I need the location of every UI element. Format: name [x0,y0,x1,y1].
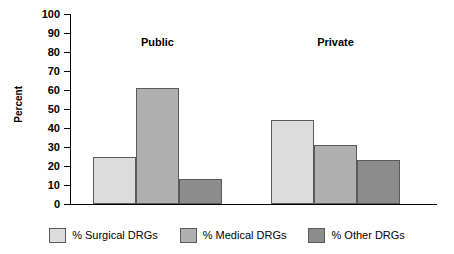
legend-item: % Medical DRGs [180,228,287,243]
y-axis-tick [64,204,70,205]
y-axis-tick-label: 20 [20,161,60,172]
legend-item: % Other DRGs [308,228,404,243]
bar [271,120,314,204]
bar [357,160,400,204]
y-axis-line [70,14,71,205]
group-title-private: Private [286,36,386,48]
y-axis-tick-label: 70 [20,66,60,77]
bar [314,145,357,204]
legend-label: % Other DRGs [331,229,404,241]
y-axis-tick [64,166,70,167]
y-axis-tick [64,128,70,129]
chart-legend: % Surgical DRGs% Medical DRGs% Other DRG… [0,222,454,248]
legend-swatch-icon [180,228,197,243]
y-axis-tick [64,71,70,72]
bar [136,88,179,204]
x-axis-line [70,204,437,205]
y-axis-tick-label: 10 [20,180,60,191]
legend-swatch-icon [308,228,325,243]
legend-label: % Surgical DRGs [72,229,158,241]
y-axis-tick [64,90,70,91]
y-axis-tick [64,33,70,34]
legend-swatch-icon [49,228,66,243]
y-axis-tick [64,14,70,15]
bar [93,157,136,204]
legend-label: % Medical DRGs [203,229,287,241]
y-axis-tick [64,147,70,148]
y-axis-tick-label: 0 [20,199,60,210]
y-axis-tick-label: 60 [20,85,60,96]
y-axis-tick-label: 90 [20,28,60,39]
bar-chart: Percent 1009080706050403020100 PublicPri… [0,0,454,254]
y-axis-tick-label: 30 [20,142,60,153]
legend-item: % Surgical DRGs [49,228,158,243]
bar [179,179,222,204]
y-axis-tick [64,109,70,110]
y-axis-tick [64,185,70,186]
y-axis-tick [64,52,70,53]
y-axis-tick-label: 40 [20,123,60,134]
group-title-public: Public [108,36,208,48]
y-axis-tick-label: 50 [20,104,60,115]
y-axis-tick-label: 80 [20,47,60,58]
y-axis-tick-label: 100 [20,9,60,20]
